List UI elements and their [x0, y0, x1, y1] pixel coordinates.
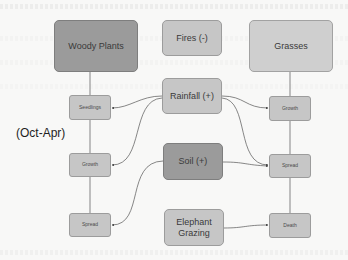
node-woody-plants: Woody Plants	[54, 20, 138, 72]
node-grasses: Grasses	[249, 20, 333, 72]
background-texture	[0, 4, 348, 9]
node-label: Fires (-)	[176, 33, 208, 43]
node-label: Growth	[82, 162, 98, 168]
node-elephant-grazing: Elephant Grazing	[164, 209, 224, 246]
node-label: Elephant Grazing	[170, 217, 218, 238]
node-woody-seedlings: Seedlings	[69, 95, 111, 120]
node-label: Spread	[82, 222, 98, 228]
node-grasses-spread: Spread	[269, 154, 311, 178]
diagram-canvas: Woody Plants Fires (-) Grasses Rainfall …	[0, 0, 348, 260]
node-grasses-death: Death	[269, 213, 311, 238]
node-label: Soil (+)	[179, 156, 208, 166]
node-label: Rainfall (+)	[170, 91, 214, 101]
node-fires: Fires (-)	[162, 20, 222, 56]
node-label: Grasses	[274, 41, 308, 51]
node-grasses-growth: Growth	[269, 96, 311, 121]
season-label: (Oct-Apr)	[16, 126, 65, 140]
node-rainfall: Rainfall (+)	[162, 78, 222, 114]
node-label: Spread	[282, 163, 298, 169]
background-texture	[0, 250, 348, 255]
node-label: Growth	[282, 106, 298, 112]
node-woody-growth: Growth	[69, 153, 111, 177]
node-woody-spread: Spread	[69, 213, 111, 237]
node-label: Woody Plants	[68, 41, 123, 51]
node-label: Death	[283, 223, 296, 229]
node-label: Seedlings	[79, 105, 101, 111]
node-soil: Soil (+)	[163, 143, 223, 180]
